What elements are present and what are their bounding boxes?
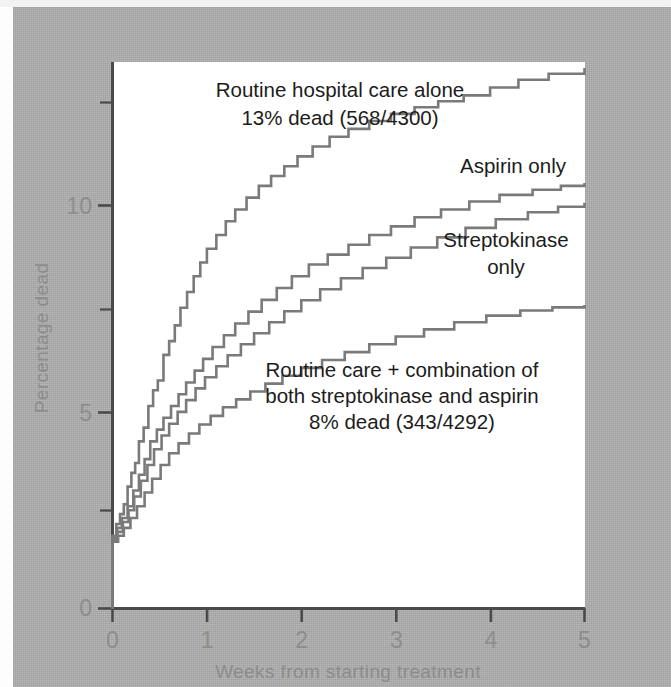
x-axis-title: Weeks from starting treatment bbox=[215, 661, 481, 682]
annotation-streptokinase-line2: only bbox=[487, 255, 525, 278]
x-tick-label-2: 2 bbox=[295, 627, 308, 653]
annotation-combination-line1: Routine care + combination of bbox=[266, 358, 539, 381]
plot-area bbox=[112, 62, 585, 608]
annotation-combination-line3: 8% dead (343/4292) bbox=[309, 410, 495, 433]
x-tick-label-4: 4 bbox=[485, 627, 498, 653]
figure-container: 0 5 10 0 1 2 3 4 5 Weeks from starting t… bbox=[0, 0, 671, 687]
annotation-aspirin-line1: Aspirin only bbox=[460, 154, 567, 177]
x-tick-label-1: 1 bbox=[201, 627, 214, 653]
x-tick-label-5: 5 bbox=[578, 627, 591, 653]
annotation-combination-line2: both streptokinase and aspirin bbox=[265, 384, 539, 407]
survival-curve-chart: 0 5 10 0 1 2 3 4 5 Weeks from starting t… bbox=[0, 0, 671, 687]
y-axis-ticks bbox=[98, 103, 112, 609]
annotation-streptokinase-line1: Streptokinase bbox=[443, 228, 568, 251]
y-tick-label-10: 10 bbox=[66, 193, 92, 219]
x-tick-label-3: 3 bbox=[390, 627, 403, 653]
annotation-control-line2: 13% dead (568/4300) bbox=[241, 106, 438, 129]
y-tick-label-5: 5 bbox=[79, 400, 92, 426]
y-axis-title: Percentage dead bbox=[31, 263, 52, 414]
x-tick-label-0: 0 bbox=[106, 627, 119, 653]
annotation-control-line1: Routine hospital care alone bbox=[216, 78, 464, 101]
annotation-aspirin: Aspirin only bbox=[460, 154, 567, 177]
x-axis-ticks bbox=[113, 608, 585, 622]
y-tick-label-0: 0 bbox=[79, 595, 92, 621]
